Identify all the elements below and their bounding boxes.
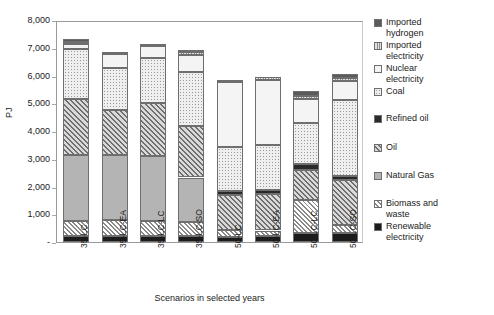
bar-segment [178,126,204,177]
legend-item[interactable]: Natural Gas [374,170,486,181]
bar-segment [293,99,319,123]
bar-segment [63,49,89,99]
bar-segment [140,46,166,58]
y-tick-mark [52,160,56,161]
y-tick-mark [52,21,56,22]
legend-item[interactable]: Coal [374,86,486,97]
bar-segment [293,123,319,164]
bar-segment [217,82,243,147]
bar-segment [140,103,166,155]
bar-segment [102,68,128,109]
legend-swatch-icon [374,200,382,208]
bar-segment [140,44,166,47]
legend-item[interactable]: Renewable electricity [374,221,486,242]
y-tick-label: 8,000 [14,16,50,25]
legend-swatch-icon [374,42,382,50]
legend-item[interactable]: Biomass and waste [374,198,486,219]
legend-swatch-icon [374,88,382,96]
bar-50-lc-lc[interactable] [293,20,319,242]
legend-label: Coal [386,86,486,97]
legend-item[interactable]: Oil [374,142,486,153]
y-tick-mark [52,243,56,244]
x-tick-label: 35-LC-EA [118,210,128,248]
bar-segment [102,52,128,54]
x-tick-label: 50-LC-LC [309,210,319,248]
y-tick-mark [52,77,56,78]
y-tick-label: 5,000 [14,99,50,108]
legend-item[interactable]: Refined oil [374,113,486,124]
legend-swatch-icon [374,115,382,123]
y-tick-mark [52,49,56,50]
bar-segment [255,190,281,194]
bar-segment [293,164,319,170]
bar-segment [102,110,128,155]
bar-group [57,22,362,242]
legend-label: Oil [386,142,486,153]
legend-label: Renewable electricity [386,221,486,242]
bar-segment [178,52,204,54]
bar-segment [178,55,204,72]
y-tick-label: 3,000 [14,155,50,164]
y-tick-mark [52,188,56,189]
legend-label: Imported hydrogen [386,17,486,38]
bar-segment [217,147,243,191]
x-tick-label: 35-LC-SO [194,209,204,248]
bar-segment [217,191,243,195]
bar-segment [63,44,89,49]
y-tick-label: 6,000 [14,72,50,81]
legend-item[interactable]: Imported hydrogen [374,17,486,38]
bar-segment [63,99,89,155]
bar-segment [178,72,204,126]
y-tick-label: 2,000 [14,183,50,192]
bar-segment [255,77,281,80]
x-tick-label: 50-LC [233,224,243,248]
x-tick-label: 35-LC [79,224,89,248]
y-tick-mark [52,104,56,105]
x-tick-label: 50-LC-SO [348,209,358,248]
legend-swatch-icon [374,172,382,180]
bar-35-lc[interactable] [63,20,89,242]
bar-segment [140,58,166,104]
y-tick-label: - [14,238,50,247]
bar-segment [293,170,319,200]
y-tick-mark [52,132,56,133]
legend-label: Imported electricity [386,40,486,61]
chart-legend: Imported hydrogenImported electricityNuc… [374,17,492,299]
x-tick-label: 35-LC-LC [156,210,166,248]
bar-segment [293,96,319,99]
bar-segment [63,155,89,222]
bar-segment [332,74,358,78]
bar-50-lc[interactable] [217,20,243,242]
bar-segment [332,78,358,81]
bar-50-lc-ea[interactable] [255,20,281,242]
bar-35-lc-lc[interactable] [140,20,166,242]
legend-label: Natural Gas [386,170,486,181]
bar-segment [332,176,358,180]
y-axis-tick-labels: -1,0002,0003,0004,0005,0006,0007,0008,00… [8,0,50,315]
legend-label: Biomass and waste [386,198,486,219]
bar-segment [63,42,89,45]
stacked-bar-chart: PJ -1,0002,0003,0004,0005,0006,0007,0008… [0,0,494,315]
x-axis-title: Scenarios in selected years [56,293,363,303]
legend-label: Refined oil [386,113,486,124]
legend-swatch-icon [374,65,382,73]
bar-segment [332,81,358,99]
bar-35-lc-ea[interactable] [102,20,128,242]
bar-segment [255,80,281,145]
legend-swatch-icon [374,19,382,27]
y-tick-label: 7,000 [14,44,50,53]
y-tick-mark [52,215,56,216]
bar-segment [255,145,281,190]
bar-segment [217,80,243,83]
legend-swatch-icon [374,223,382,231]
legend-swatch-icon [374,144,382,152]
bar-segment [102,54,128,68]
y-tick-label: 4,000 [14,127,50,136]
legend-item[interactable]: Imported electricity [374,40,486,61]
y-tick-label: 1,000 [14,210,50,219]
bar-segment [293,91,319,95]
bar-segment [332,100,358,176]
x-tick-label: 50-LC-EA [271,210,281,248]
legend-item[interactable]: Nuclear electricity [374,63,486,84]
legend-label: Nuclear electricity [386,63,486,84]
